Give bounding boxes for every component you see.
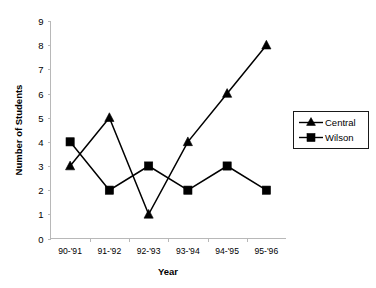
series-line-central — [70, 45, 266, 214]
x-category-label-0: 90-'91 — [58, 246, 82, 256]
square-marker-icon — [105, 186, 113, 194]
legend-label-wilson: Wilson — [325, 132, 354, 143]
y-tick-label-3: 3 — [38, 161, 43, 172]
legend: Central Wilson — [294, 112, 369, 149]
triangle-marker-icon — [262, 40, 271, 49]
y-tick-label-5: 5 — [38, 113, 43, 124]
square-marker-icon — [66, 138, 74, 146]
y-tick-label-1: 1 — [38, 209, 43, 220]
series-lines — [70, 45, 266, 214]
x-axis-title: Year — [158, 266, 178, 277]
legend-label-central: Central — [325, 117, 356, 128]
chart-canvas: 0123456789 90-'9191-'9292-'9393-'9494-'9… — [0, 0, 376, 288]
y-axis-tick-labels: 0123456789 — [38, 16, 43, 245]
square-marker-icon — [184, 186, 192, 194]
x-category-label-5: 95-'96 — [255, 246, 279, 256]
y-tick-label-7: 7 — [38, 64, 43, 75]
square-marker-icon — [145, 162, 153, 170]
y-tick-label-4: 4 — [38, 137, 43, 148]
x-axis-category-labels: 90-'9191-'9292-'9393-'9494-'9595-'96 — [58, 246, 278, 256]
y-tick-label-8: 8 — [38, 40, 43, 51]
square-marker-icon — [262, 186, 270, 194]
series-line-wilson — [70, 142, 266, 190]
y-tick-label-0: 0 — [38, 234, 43, 245]
series-markers — [66, 40, 271, 218]
y-axis-title: Number of Students — [13, 85, 24, 176]
line-chart: 0123456789 90-'9191-'9292-'9393-'9494-'9… — [0, 0, 376, 288]
triangle-marker-icon — [144, 209, 153, 218]
y-tick-label-9: 9 — [38, 16, 43, 27]
x-category-label-1: 91-'92 — [98, 246, 122, 256]
square-marker-icon — [307, 134, 315, 142]
x-category-label-4: 94-'95 — [215, 246, 239, 256]
y-tick-label-6: 6 — [38, 89, 43, 100]
y-tick-label-2: 2 — [38, 185, 43, 196]
x-category-label-2: 92-'93 — [137, 246, 161, 256]
square-marker-icon — [223, 162, 231, 170]
x-category-label-3: 93-'94 — [176, 246, 200, 256]
legend-item-wilson: Wilson — [299, 132, 354, 143]
triangle-marker-icon — [105, 113, 114, 122]
